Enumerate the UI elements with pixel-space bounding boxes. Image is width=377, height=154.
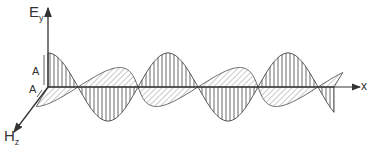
h-axis-label: Hz xyxy=(4,128,19,143)
e-axis-label: Ey xyxy=(29,4,44,19)
em-wave-diagram: Ey Hz x A A xyxy=(0,0,377,154)
amplitude-h-label: A xyxy=(29,84,36,95)
amplitude-e-label: A xyxy=(32,66,39,77)
wave-figure xyxy=(0,0,377,154)
x-axis-label: x xyxy=(361,80,367,92)
